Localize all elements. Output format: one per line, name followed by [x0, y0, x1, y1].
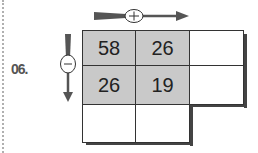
plus-right-arrow-icon	[94, 9, 190, 23]
exercise-number: 06.	[11, 61, 27, 77]
dotted-margin-line	[2, 0, 4, 153]
grid-cell-r2c2: 19	[135, 65, 190, 105]
minus-down-arrow-icon	[55, 34, 81, 102]
grid-cell-r3c1[interactable]	[82, 104, 136, 143]
grid-cell-r2c1: 26	[82, 65, 136, 105]
grid-cell-r3c2[interactable]	[135, 104, 190, 143]
grid-cell-r2c3[interactable]	[189, 65, 244, 105]
number-grid: 58 26 26 19	[82, 30, 244, 143]
grid-cell-r1c3[interactable]	[189, 30, 244, 66]
grid-cell-r1c1: 58	[82, 30, 136, 66]
grid-cell-r1c2: 26	[135, 30, 190, 66]
